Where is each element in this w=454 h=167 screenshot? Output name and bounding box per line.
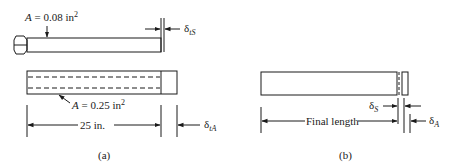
caption-b: (b): [339, 150, 352, 161]
bolt-head: [14, 36, 27, 54]
delta-ta-subscript: tA: [209, 124, 216, 133]
length-25-label: 25 in.: [80, 120, 105, 131]
delta-ta-label: δtA: [204, 119, 216, 133]
aluminum-tube: [27, 71, 177, 94]
caption-a: (a): [98, 150, 110, 161]
delta-ts-label: δtS: [184, 23, 195, 37]
bolt-shank: [27, 38, 161, 52]
bolt-area-label: AA = 0.08 in = 0.08 in2: [25, 11, 78, 23]
diagram-canvas: [0, 0, 454, 167]
tube-area-label: A = 0.25 in2: [72, 99, 125, 111]
delta-a-label: δA: [429, 115, 439, 129]
final-bar: [261, 72, 397, 95]
tube-area-exponent: 2: [121, 98, 125, 107]
delta-s-subscript: S: [374, 105, 378, 114]
delta-s-label: δS: [369, 100, 378, 114]
delta-ts-subscript: tS: [189, 28, 195, 37]
delta-a-subscript: A: [434, 120, 439, 129]
bolt-area-exponent: 2: [74, 10, 78, 19]
final-length-label: Final length: [306, 116, 359, 127]
